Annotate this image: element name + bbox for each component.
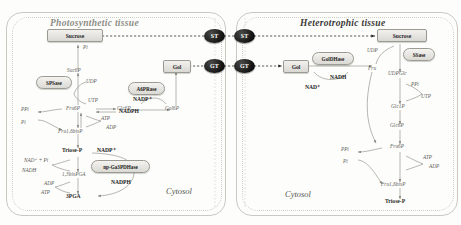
metabolite-glc6p-right: Glc6P [390,122,404,128]
cofactor-atp-pfk-left: ATP [101,115,110,121]
metabolite-box-sucrose-left-label: Sucrose [66,33,85,39]
cofactor-ppi-fbp-left: PPi [21,106,29,112]
metabolite-box-gol-right-label: Gol [292,64,301,70]
cofactor-adp-pgk: ADP [44,180,54,186]
metabolite-box-sucrose-right-label: Sucrose [393,33,412,39]
cofactor-ppi-fbp-right: PPi [341,146,349,152]
metabolite-triose-p-right: Triose-P [385,198,405,204]
transporter-gt-left-label: GT [210,63,219,69]
cofactor-nadph-gapdh: NADPH [111,179,131,185]
metabolite-fru16bisp-right: Fru1,6bisP [381,181,406,187]
cofactor-adp-pfk-left: ADP [106,124,116,130]
enzyme-spsase[interactable]: SPSase [36,76,72,89]
cofactor-nad-pi: NAD⁺ + Pi [24,157,48,163]
cofactor-adp-pfk-right: ADP [429,163,439,169]
cofactor-pi-fbp-left: Pi [21,119,26,125]
transporter-st-left[interactable]: ST [204,29,225,43]
transporter-st-right[interactable]: ST [234,29,255,43]
metabolite-box-gol-right[interactable]: Gol [283,60,309,73]
cofactor-nadp-plus-gapdh: NADP⁺ [97,147,116,153]
enzyme-ssase-label: SSase [413,52,426,58]
cofactor-udp-right: UDP [367,47,378,53]
transporter-st-left-label: ST [211,33,219,39]
cofactor-nadph-a6prase: NADPH [119,108,139,114]
metabolite-box-sucrose-right[interactable]: Sucrose [377,29,427,42]
pathway-diagram: Photosynthetic tissue Heterotrophic tiss… [0,0,461,225]
metabolite-fru6p-left: Fru6P [66,105,80,111]
transporter-gt-right-label: GT [240,63,249,69]
heterotrophic-cytosol-outline [242,17,454,211]
cofactor-pi-sucrose: Pi [83,44,88,50]
metabolite-gol6p: Gol6P [165,105,179,111]
cofactor-nadh-right: NADH [330,74,346,80]
transporter-st-right-label: ST [241,33,249,39]
cofactor-udp: UDP [86,78,97,84]
enzyme-np-ga3pdhase-label: np-Ga3PDHase [103,164,138,170]
cofactor-utp: UTP [88,97,98,103]
cofactor-utp-right: UTP [421,93,431,99]
metabolite-glc1p: Glc1P [391,103,405,109]
metabolite-fru16bisp-left: Fru1,6bisP [58,128,83,134]
compartment-label-cytosol-right: Cytosol [285,189,311,199]
metabolite-fru: Fru [368,65,376,71]
cofactor-ppi-right: PPi [411,81,419,87]
cofactor-atp-pgk: ATP [41,189,50,195]
tissue-title-photosynthetic: Photosynthetic tissue [50,18,139,28]
enzyme-goldhase-label: GolDHase [322,56,345,62]
metabolite-udpglc: UDPGlc [388,70,407,76]
enzyme-spsase-label: SPSase [46,80,62,86]
cofactor-pi-fbp-right: Pi [343,158,348,164]
tissue-title-heterotrophic: Heterotrophic tissue [300,18,385,28]
enzyme-ssase[interactable]: SSase [403,48,435,61]
metabolite-box-gol-left-label: Gol [173,64,182,70]
metabolite-box-sucrose-left[interactable]: Sucrose [47,29,103,42]
metabolite-fru6p-right: Fru6P [390,143,404,149]
metabolite-box-gol-left[interactable]: Gol [163,60,191,73]
transporter-gt-right[interactable]: GT [234,59,255,73]
compartment-label-cytosol-left: Cytosol [166,186,192,196]
enzyme-a6prase-label: A6PRase [136,86,156,92]
metabolite-bpga: 1,3bisPGA [62,171,86,177]
enzyme-np-ga3pdhase[interactable]: np-Ga3PDHase [91,160,150,173]
cofactor-nadh-left: NADH [22,167,36,173]
cofactor-nad-plus-right: NAD⁺ [305,84,320,90]
enzyme-goldhase[interactable]: GolDHase [312,52,354,65]
metabolite-triose-p-left: Triose-P [62,147,82,153]
metabolite-3pga: 3PGA [66,193,81,199]
transporter-gt-left[interactable]: GT [204,59,225,73]
enzyme-a6prase[interactable]: A6PRase [128,82,165,95]
cofactor-atp-pfk-right: ATP [423,154,432,160]
metabolite-suc6p: Suc6P [67,67,81,73]
cofactor-nadp-plus-a6prase: NADP⁺ [133,96,152,102]
